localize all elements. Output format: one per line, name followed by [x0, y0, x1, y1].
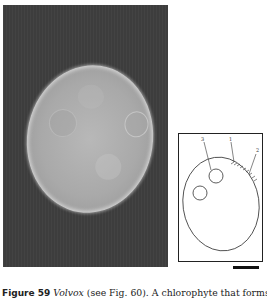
- figure-label: Figure 59: [2, 288, 50, 298]
- diagram-drawing: 3 1 2: [179, 134, 262, 261]
- label-1: 1: [229, 136, 232, 142]
- daughter-colony: [94, 152, 123, 181]
- daughter-colony: [76, 83, 105, 110]
- caption-text: (see Fig. 60). A chlorophyte that forms: [84, 287, 267, 298]
- label-3: 3: [201, 136, 204, 142]
- genus-name: Volvox: [53, 287, 84, 298]
- figure-caption: Figure 59 Volvox (see Fig. 60). A chloro…: [2, 287, 267, 299]
- daughter-colony: [123, 110, 150, 139]
- label-2: 2: [256, 147, 259, 153]
- volvox-diagram: 3 1 2: [178, 133, 263, 262]
- daughter-colony: [47, 107, 79, 139]
- scale-bar: [233, 266, 259, 269]
- volvox-micrograph: [3, 5, 168, 267]
